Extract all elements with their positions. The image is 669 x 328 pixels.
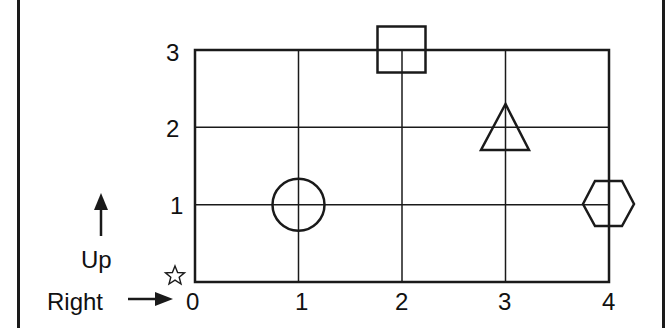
y-tick-2: 2 <box>166 117 179 141</box>
star-origin-icon <box>166 266 185 284</box>
grid-lines <box>195 50 609 282</box>
right-label: Right <box>47 290 103 314</box>
y-tick-1: 1 <box>170 194 183 218</box>
y-tick-3: 3 <box>166 41 179 65</box>
coordinate-grid <box>0 0 669 328</box>
x-tick-4: 4 <box>602 290 615 314</box>
up-label: Up <box>81 248 112 272</box>
up-arrow-icon <box>94 193 108 236</box>
x-tick-0: 0 <box>186 290 199 314</box>
x-tick-2: 2 <box>395 290 408 314</box>
right-arrow-icon <box>128 292 173 306</box>
x-tick-1: 1 <box>295 290 308 314</box>
x-tick-3: 3 <box>498 290 511 314</box>
